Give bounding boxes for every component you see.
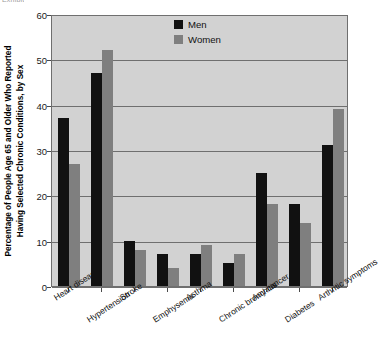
bar-women (102, 50, 113, 286)
bar-men (223, 263, 234, 286)
bar-women (234, 254, 245, 286)
y-axis-tick-label: 10 (7, 236, 47, 247)
legend: Men Women (174, 17, 221, 47)
legend-swatch-men-icon (174, 20, 183, 29)
bar-group (184, 16, 217, 286)
bar-men (190, 254, 201, 286)
x-axis-tick-mark (233, 288, 234, 292)
bar-women (135, 250, 146, 286)
bar-group (151, 16, 184, 286)
bar-women (300, 223, 311, 286)
bar-women (333, 109, 344, 286)
bar-women (267, 204, 278, 286)
y-axis-tick-label: 40 (7, 100, 47, 111)
bar-men (322, 145, 333, 286)
y-axis-tick-label: 30 (7, 146, 47, 157)
bar-group (217, 16, 250, 286)
y-axis-tick-mark (47, 106, 51, 107)
bar-men (256, 173, 267, 286)
x-axis-tick-mark (167, 288, 168, 292)
y-axis-tick-mark (47, 196, 51, 197)
y-axis-tick-label: 0 (7, 282, 47, 293)
x-axis-tick-mark (299, 288, 300, 292)
y-axis-tick-mark (47, 60, 51, 61)
legend-item-women: Women (174, 32, 221, 46)
bar-group (250, 16, 283, 286)
x-axis-tick-mark (101, 288, 102, 292)
y-axis-tick-mark (47, 15, 51, 16)
plot-area (51, 15, 348, 287)
cropped-header-text: Exhibit (2, 0, 24, 2)
y-axis-tick-mark (47, 242, 51, 243)
bar-women (69, 164, 80, 286)
y-axis-tick-label: 20 (7, 191, 47, 202)
bar-women (168, 268, 179, 286)
y-axis-tick-label: 50 (7, 55, 47, 66)
bar-group (85, 16, 118, 286)
legend-swatch-women-icon (174, 35, 183, 44)
bar-series-container (52, 16, 347, 286)
bar-group (118, 16, 151, 286)
y-axis-tick-mark (47, 287, 51, 288)
bar-men (157, 254, 168, 286)
legend-item-men: Men (174, 17, 221, 31)
bar-men (58, 118, 69, 286)
bar-group (316, 16, 349, 286)
x-axis-tick-label: Diabetes (283, 298, 316, 324)
legend-label-men: Men (188, 19, 207, 30)
y-axis-tick-mark (47, 151, 51, 152)
bar-men (91, 73, 102, 286)
bar-men (124, 241, 135, 286)
y-axis-tick-label: 60 (7, 10, 47, 21)
bar-group (283, 16, 316, 286)
bar-group (52, 16, 85, 286)
legend-label-women: Women (188, 34, 221, 45)
bar-men (289, 204, 300, 286)
